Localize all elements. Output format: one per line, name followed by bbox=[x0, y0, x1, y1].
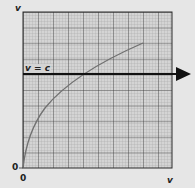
asymptote-label: v = c bbox=[24, 64, 51, 73]
grid bbox=[23, 12, 172, 168]
x-origin-label: 0 bbox=[20, 174, 26, 183]
arrow-right-icon bbox=[176, 67, 191, 81]
x-axis-label: v bbox=[167, 176, 173, 185]
y-axis-label: v bbox=[15, 4, 21, 13]
graph-canvas bbox=[0, 0, 195, 188]
y-origin-label: 0 bbox=[12, 163, 18, 172]
